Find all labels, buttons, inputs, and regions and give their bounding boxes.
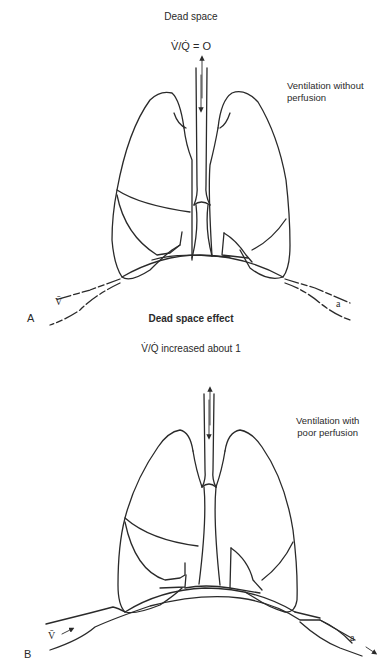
lung-diagram-figure	[0, 0, 382, 664]
panel-a-lungs-drawing	[50, 58, 350, 325]
panel-b-lungs-drawing	[46, 389, 375, 656]
